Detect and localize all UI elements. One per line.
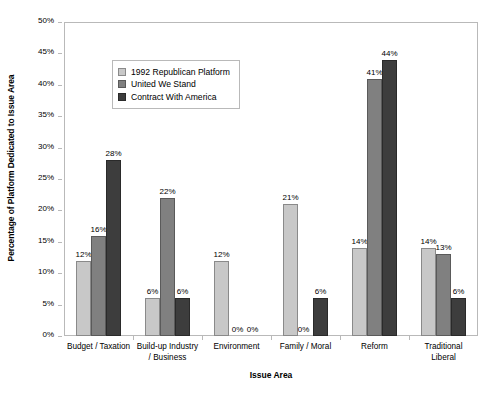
x-axis-category-label: TraditionalLiberal [403, 342, 484, 363]
bar-value-label: 0% [239, 325, 267, 334]
x-axis-category-label-line: Liberal [403, 353, 484, 364]
bar-value-label: 13% [430, 243, 458, 252]
bar-value-label: 6% [445, 287, 473, 296]
legend-item[interactable]: Contract With America [118, 91, 230, 103]
y-axis-tick-label: 40% [38, 79, 54, 88]
bar [382, 60, 397, 336]
y-axis-tick-label: 35% [38, 110, 54, 119]
y-axis-tick-label: 5% [42, 299, 54, 308]
y-axis-tick-mark [58, 179, 62, 180]
y-axis-tick-mark [58, 242, 62, 243]
y-axis-tick-mark [58, 273, 62, 274]
y-axis-tick-mark [58, 210, 62, 211]
y-axis-tick-mark [58, 148, 62, 149]
y-axis-tick-mark [58, 116, 62, 117]
bar-value-label: 28% [100, 149, 128, 158]
legend-label: Contract With America [131, 92, 216, 102]
y-axis-tick-mark [58, 22, 62, 23]
y-axis-tick-label: 10% [38, 267, 54, 276]
bar [175, 298, 190, 336]
x-axis-tick-mark [271, 336, 272, 340]
x-axis-tick-mark [133, 336, 134, 340]
x-axis-tick-mark [340, 336, 341, 340]
bar-value-label: 6% [307, 287, 335, 296]
bar [76, 261, 91, 336]
x-axis-tick-mark [409, 336, 410, 340]
x-axis-tick-mark [202, 336, 203, 340]
bar [367, 79, 382, 336]
legend-swatch [118, 80, 126, 88]
bar-value-label: 44% [376, 49, 404, 58]
bar [421, 248, 436, 336]
bar [160, 198, 175, 336]
bar-value-label: 12% [208, 250, 236, 259]
y-axis-tick-mark [58, 336, 62, 337]
bar [145, 298, 160, 336]
bar-value-label: 21% [277, 193, 305, 202]
y-axis-tick-mark [58, 85, 62, 86]
bar [91, 236, 106, 336]
legend: 1992 Republican PlatformUnited We StandC… [112, 60, 240, 109]
y-axis-tick-mark [58, 53, 62, 54]
y-axis-tick-label: 50% [38, 16, 54, 25]
y-axis-tick-label: 25% [38, 173, 54, 182]
bar-chart: Percentage of Platform Dedicated to Issu… [0, 0, 498, 400]
legend-label: United We Stand [131, 79, 196, 89]
x-axis-category-label-line: / Business [127, 353, 208, 364]
bar-value-label: 22% [154, 187, 182, 196]
legend-swatch [118, 93, 126, 101]
y-axis-tick-label: 20% [38, 204, 54, 213]
legend-label: 1992 Republican Platform [131, 67, 230, 77]
y-axis-tick-label: 45% [38, 47, 54, 56]
legend-item[interactable]: 1992 Republican Platform [118, 66, 230, 78]
bar [313, 298, 328, 336]
bar [352, 248, 367, 336]
y-axis-tick-mark [58, 305, 62, 306]
bar-value-label: 6% [169, 287, 197, 296]
bar [451, 298, 466, 336]
legend-item[interactable]: United We Stand [118, 78, 230, 90]
legend-swatch [118, 68, 126, 76]
y-axis-tick-label: 15% [38, 236, 54, 245]
y-axis-tick-label: 30% [38, 142, 54, 151]
y-axis-title-text: Percentage of Platform Dedicated to Issu… [6, 75, 16, 262]
x-axis-title: Issue Area [64, 370, 478, 380]
y-axis-tick-label: 0% [42, 330, 54, 339]
x-axis-category-label-line: Traditional [403, 342, 484, 353]
bar [283, 204, 298, 336]
y-axis-title: Percentage of Platform Dedicated to Issu… [0, 0, 22, 336]
bar [106, 160, 121, 336]
